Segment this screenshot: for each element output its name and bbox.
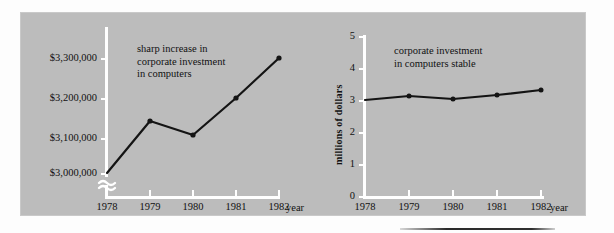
left-data-point-1981 [233, 95, 238, 100]
left-data-point-1979 [147, 118, 152, 123]
figure-panel: $3,300,000 $3,200,000 $3,100,000 $3,000,… [21, 13, 585, 215]
right-line-chart: 5 4 3 2 1 0 millions of dollars 1978 197… [311, 13, 585, 215]
left-data-point-1982 [276, 55, 281, 60]
right-data-series [311, 13, 585, 215]
page-edge-artifact [400, 228, 555, 230]
right-data-point-1980 [451, 97, 456, 102]
left-data-point-1980 [190, 132, 195, 137]
figure-root: $3,300,000 $3,200,000 $3,100,000 $3,000,… [0, 0, 614, 233]
right-data-point-1981 [495, 93, 500, 98]
right-data-point-1982 [539, 88, 544, 93]
left-line-chart: $3,300,000 $3,200,000 $3,100,000 $3,000,… [21, 13, 311, 215]
left-data-series [21, 13, 311, 215]
right-data-point-1979 [407, 94, 412, 99]
